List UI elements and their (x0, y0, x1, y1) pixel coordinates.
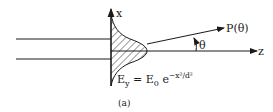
x-axis-label: x (116, 7, 123, 20)
figure-caption: (a) (118, 98, 130, 108)
angle-label: θ (199, 39, 206, 52)
ray-p-theta (147, 28, 224, 44)
ray-label: P(θ) (226, 22, 249, 35)
angle-arc-arrow-icon (194, 38, 196, 51)
z-axis-label: z (258, 45, 264, 58)
field-equation: Ey = E0 e−x²/d² (117, 71, 193, 88)
aperture-diagram: x z P(θ) θ Ey = E0 e−x²/d² (a) (0, 0, 273, 112)
